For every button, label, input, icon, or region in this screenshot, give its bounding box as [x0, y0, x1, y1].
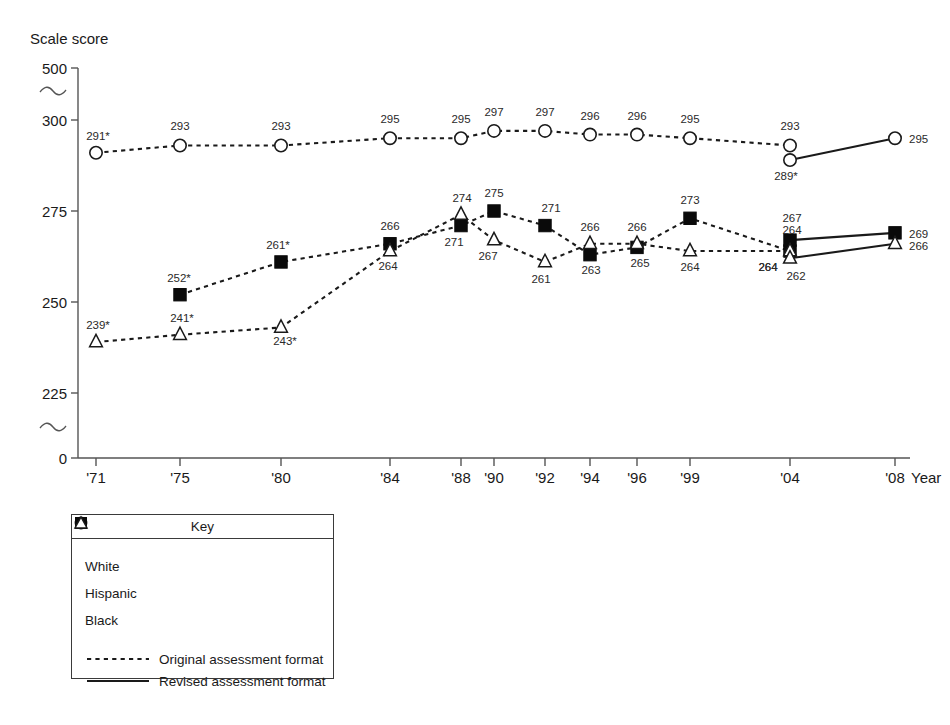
point-value-label: 241* [170, 312, 194, 324]
axis-break-squiggle [40, 87, 66, 95]
marker-open-triangle [488, 232, 501, 244]
point-value-label: 261 [531, 273, 550, 285]
marker-open-triangle [275, 320, 288, 332]
point-value-label: 274 [452, 192, 472, 204]
point-value-label: 252* [167, 272, 191, 284]
marker-open-circle [90, 147, 102, 159]
point-value-label: 296 [627, 110, 646, 122]
marker-filled-square [275, 256, 287, 268]
x-axis-tick-label: '92 [535, 469, 555, 486]
marker-filled-square [584, 248, 596, 260]
legend-format-label: Original assessment format [159, 652, 323, 667]
legend-label: Hispanic [85, 586, 245, 601]
marker-open-circle [174, 139, 186, 151]
marker-open-circle [684, 132, 696, 144]
legend-format-row-dashed: Original assessment format [72, 648, 333, 670]
point-value-label: 293 [780, 120, 799, 132]
marker-open-circle [784, 154, 796, 166]
y-axis-tick-label: 275 [42, 203, 67, 220]
series-markers-white-original [90, 125, 796, 159]
point-value-label: 243* [273, 335, 297, 347]
marker-open-circle [539, 125, 551, 137]
point-value-label: 264 [378, 260, 398, 272]
x-axis-tick-label: '84 [380, 469, 400, 486]
point-value-label: 273 [680, 194, 699, 206]
marker-filled-square [684, 212, 696, 224]
point-value-label-stacked: 264 [782, 224, 802, 236]
legend-format-row-solid: Revised assessment format [72, 670, 333, 692]
x-axis-tick-label: '75 [170, 469, 190, 486]
point-value-label: 275 [484, 187, 503, 199]
point-value-label: 297 [484, 106, 503, 118]
point-value-label: 267 [478, 250, 497, 262]
point-value-label: 239* [86, 319, 110, 331]
point-value-label: 289* [774, 170, 798, 182]
marker-open-triangle [584, 236, 597, 248]
y-axis-tick-label: 250 [42, 294, 67, 311]
marker-open-circle [488, 125, 500, 137]
point-value-label: 266 [627, 221, 646, 233]
x-axis-tick-label: '88 [451, 469, 471, 486]
legend-line-swatch-dashed [85, 653, 151, 665]
marker-open-triangle [455, 207, 468, 219]
y-axis-tick-label: 500 [42, 60, 67, 77]
x-axis-tick-label: '08 [885, 469, 905, 486]
legend-row-black: Black [72, 607, 333, 634]
point-value-label: 267 [782, 212, 801, 224]
x-axis-tick-label: '80 [271, 469, 291, 486]
point-value-label: 269 [909, 228, 928, 240]
axis-break-squiggle [40, 423, 66, 431]
legend-label: White [85, 559, 245, 574]
point-value-label: 264 [758, 261, 778, 273]
x-axis-tick-label: '99 [680, 469, 700, 486]
chart-point-labels: 291*293293295295297297296296295293289*29… [86, 106, 928, 348]
marker-filled-square [455, 219, 467, 231]
legend-marker-rows: WhiteHispanicBlack [72, 539, 333, 634]
x-axis-tick-label: '90 [484, 469, 504, 486]
marker-open-circle [584, 128, 596, 140]
series-line-black-original [96, 215, 790, 342]
point-value-label: 295 [680, 113, 699, 125]
point-value-label: 263 [581, 264, 600, 276]
legend-key-box: Key WhiteHispanicBlack Original assessme… [71, 514, 334, 679]
marker-open-circle [889, 132, 901, 144]
marker-open-circle [275, 139, 287, 151]
x-axis-tick-label: '04 [780, 469, 800, 486]
x-axis-tick-label: '94 [580, 469, 600, 486]
x-axis-title: Year [911, 469, 941, 486]
point-value-label: 266 [380, 220, 399, 232]
point-value-label: 261* [266, 239, 290, 251]
point-value-label: 293 [170, 120, 189, 132]
y-axis-tick-label: 0 [59, 450, 67, 467]
line-chart-plot: 5003002752502250'71'75'80'84'88'90'92'94… [0, 0, 950, 500]
point-value-label: 264 [680, 261, 700, 273]
point-value-label: 295 [451, 113, 470, 125]
chart-page: Scale score 5003002752502250'71'75'80'84… [0, 0, 950, 725]
marker-open-circle [455, 132, 467, 144]
point-value-label: 295 [909, 133, 928, 145]
point-value-label: 266 [909, 240, 928, 252]
series-line-hispanic-revised [790, 233, 895, 240]
point-value-label: 296 [580, 110, 599, 122]
legend-line-swatch-solid [85, 675, 151, 687]
y-axis-tick-label: 300 [42, 112, 67, 129]
point-value-label: 271 [541, 202, 560, 214]
point-value-label: 295 [380, 113, 399, 125]
series-line-white-revised [790, 138, 895, 160]
marker-filled-square [174, 289, 186, 301]
legend-format-rows: Original assessment formatRevised assess… [72, 648, 333, 692]
marker-open-circle [384, 132, 396, 144]
legend-title: Key [72, 515, 333, 539]
point-value-label: 265 [630, 257, 649, 269]
series-markers-black-original [90, 207, 797, 347]
point-value-label: 291* [86, 130, 110, 142]
x-axis-tick-label: '96 [627, 469, 647, 486]
legend-format-label: Revised assessment format [159, 674, 326, 689]
point-value-label: 297 [535, 106, 554, 118]
marker-filled-square [488, 205, 500, 217]
legend-row-hispanic: Hispanic [72, 580, 333, 607]
marker-open-circle [631, 128, 643, 140]
legend-row-white: White [72, 553, 333, 580]
x-axis-tick-label: '71 [86, 469, 106, 486]
series-line-black-revised [790, 244, 895, 259]
